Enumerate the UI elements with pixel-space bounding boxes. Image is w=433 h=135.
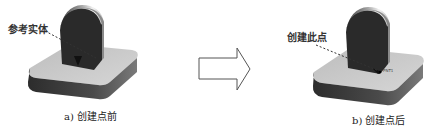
create-point-callout: 创建此点 xyxy=(287,32,327,44)
boss-feature xyxy=(346,7,390,74)
point-label: PNT1 xyxy=(383,68,393,73)
caption-after: b) 创建点后 xyxy=(352,115,405,127)
created-point-marker xyxy=(379,71,381,73)
